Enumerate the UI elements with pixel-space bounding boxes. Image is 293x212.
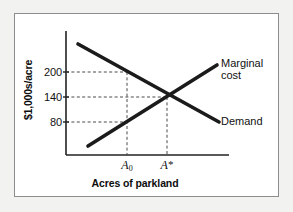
marginal-cost-curve xyxy=(88,65,217,146)
x-tick-label-a0-subscript: 0 xyxy=(129,164,133,173)
figure-root: 200 140 80 $1,000s/acre A0 A* Acres of p… xyxy=(0,0,293,212)
y-tick-label-80: 80 xyxy=(30,116,62,128)
y-tick-label-200: 200 xyxy=(30,66,62,78)
x-tick-label-astar-base: A xyxy=(161,158,168,172)
demand-curve xyxy=(78,44,219,122)
x-axis-title: Acres of parkland xyxy=(60,177,210,189)
y-axis-title: $1,000s/acre xyxy=(22,48,34,132)
series-label-demand: Demand xyxy=(221,116,263,128)
x-tick-label-astar: A* xyxy=(153,158,181,173)
series-label-marginal-cost-line1: Marginal xyxy=(221,58,263,70)
series-label-marginal-cost: Marginal cost xyxy=(221,58,263,81)
x-tick-label-astar-superscript: * xyxy=(168,158,174,170)
x-tick-label-a0: A0 xyxy=(113,158,141,173)
y-tick-label-140: 140 xyxy=(30,91,62,103)
x-tick-label-a0-base: A xyxy=(121,158,128,172)
series-label-marginal-cost-line2: cost xyxy=(221,70,263,82)
